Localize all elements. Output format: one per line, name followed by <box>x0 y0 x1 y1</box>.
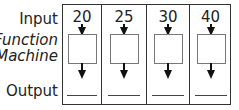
function-box <box>197 34 226 64</box>
machine-column-1: 20 <box>63 5 101 104</box>
function-box <box>154 34 183 64</box>
function-box <box>68 34 97 64</box>
function-box <box>110 34 139 64</box>
function-label-line2: Machine <box>0 48 58 64</box>
row-label-input: Input <box>19 10 58 28</box>
machine-column-4: 40 <box>189 5 231 104</box>
row-label-output: Output <box>6 82 58 100</box>
output-blank[interactable] <box>195 95 227 96</box>
output-blank[interactable] <box>67 95 97 96</box>
machine-column-2: 25 <box>101 5 146 104</box>
function-machine-table: 20 25 30 40 <box>62 4 231 105</box>
output-blank[interactable] <box>108 95 140 96</box>
machine-column-3: 30 <box>146 5 189 104</box>
row-label-function-machine: Function Machine <box>0 32 58 64</box>
output-blank[interactable] <box>152 95 184 96</box>
function-label-line1: Function <box>0 32 58 48</box>
